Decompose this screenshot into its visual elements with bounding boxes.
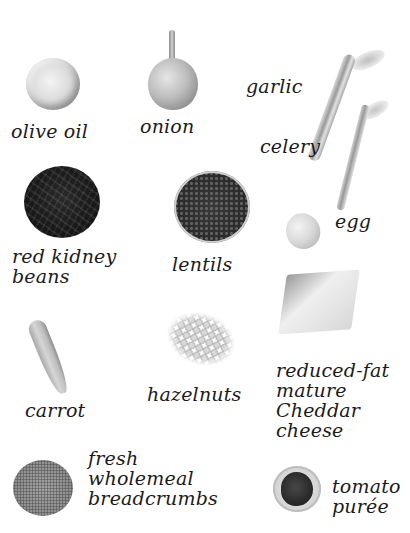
- label-red-kidney-beans: red kidney beans: [12, 246, 117, 286]
- label-onion: onion: [140, 116, 194, 136]
- breadcrumbs-bowl-icon: [13, 460, 73, 516]
- label-olive-oil: olive oil: [11, 121, 88, 141]
- label-hazelnuts: hazelnuts: [147, 384, 242, 404]
- carrot-icon: [26, 317, 72, 396]
- egg-icon: [281, 208, 325, 253]
- cheese-block-icon: [278, 270, 359, 335]
- tomato-puree-fill-icon: [281, 472, 313, 506]
- label-cheddar: reduced-fat mature Cheddar cheese: [276, 360, 389, 440]
- kidney-beans-bowl-icon: [24, 166, 100, 238]
- label-garlic: garlic: [246, 76, 303, 96]
- olive-oil-dish-icon: [26, 58, 80, 110]
- ingredients-page: olive oil onion garlic celery red kidney…: [0, 0, 410, 533]
- onion-icon: [148, 58, 198, 110]
- label-celery: celery: [260, 136, 320, 156]
- label-breadcrumbs: fresh wholemeal breadcrumbs: [88, 448, 218, 508]
- label-tomato-puree: tomato purée: [332, 476, 401, 516]
- label-lentils: lentils: [172, 254, 233, 274]
- label-carrot: carrot: [25, 400, 85, 420]
- celery-stalk-icon: [336, 104, 370, 211]
- label-egg: egg: [335, 211, 371, 231]
- lentils-bowl-icon: [174, 171, 250, 243]
- hazelnuts-icon: [159, 303, 242, 376]
